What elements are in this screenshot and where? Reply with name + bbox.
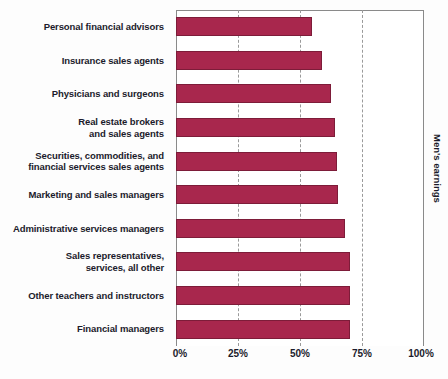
bar-row [176, 245, 424, 279]
bar-row [176, 10, 424, 44]
bar [176, 185, 338, 204]
bar [176, 17, 312, 36]
category-label-row: Physicians and surgeons [0, 77, 170, 111]
category-label-line1: Administrative services managers [13, 223, 164, 235]
category-label-line1: Marketing and sales managers [28, 189, 164, 201]
bar-row [176, 44, 424, 78]
bar-row [176, 77, 424, 111]
bar [176, 286, 350, 305]
bar-row [176, 212, 424, 246]
category-label: Sales representatives, services, all oth… [66, 250, 164, 273]
right-axis-label: Men's earnings [426, 0, 448, 336]
category-label-line1: Personal financial advisors [44, 21, 164, 33]
category-label-row: Sales representatives, services, all oth… [0, 245, 170, 279]
category-label-line1: Physicians and surgeons [52, 88, 164, 100]
x-tick-label: 0% [173, 348, 187, 359]
bar [176, 51, 322, 70]
category-label-line2: and sales agents [78, 128, 164, 140]
bar-row [176, 144, 424, 178]
category-label: Real estate brokers and sales agents [78, 116, 164, 139]
right-axis-label-text: Men's earnings [432, 134, 443, 203]
bar-row [176, 279, 424, 313]
category-label-row: Insurance sales agents [0, 44, 170, 78]
category-label-line1: Sales representatives, [66, 250, 164, 262]
x-tick-label: 100% [408, 348, 434, 359]
bar-row [176, 111, 424, 145]
x-tick-label: 50% [290, 348, 310, 359]
category-label-row: Administrative services managers [0, 212, 170, 246]
category-label: Physicians and surgeons [52, 88, 164, 100]
x-tick-label: 75% [352, 348, 372, 359]
category-label-row: Other teachers and instructors [0, 279, 170, 313]
category-label: Insurance sales agents [62, 55, 164, 67]
horizontal-bar-chart: Personal financial advisors Insurance sa… [0, 0, 448, 379]
category-label-row: Personal financial advisors [0, 10, 170, 44]
bar [176, 84, 331, 103]
category-label-row: Financial managers [0, 312, 170, 346]
x-tick-label: 25% [228, 348, 248, 359]
bar-row [176, 178, 424, 212]
category-label: Other teachers and instructors [28, 290, 164, 302]
x-axis: 0% 25% 50% 75% 100% [0, 348, 448, 366]
category-label-line1: Real estate brokers [78, 116, 164, 128]
category-axis-labels: Personal financial advisors Insurance sa… [0, 10, 170, 346]
category-label-row: Marketing and sales managers [0, 178, 170, 212]
category-label-line2: services, all other [66, 262, 164, 274]
category-label: Securities, commodities, and financial s… [28, 150, 164, 173]
bar [176, 252, 350, 271]
category-label: Marketing and sales managers [28, 189, 164, 201]
bar [176, 219, 345, 238]
category-label-line2: financial services sales agents [28, 161, 164, 173]
category-label-line1: Financial managers [77, 323, 164, 335]
bar [176, 320, 350, 339]
bar-row [176, 312, 424, 346]
category-label-line1: Other teachers and instructors [28, 290, 164, 302]
category-label: Administrative services managers [13, 223, 164, 235]
category-label-line1: Securities, commodities, and [28, 150, 164, 162]
bar [176, 118, 335, 137]
bar [176, 152, 337, 171]
category-label-row: Securities, commodities, and financial s… [0, 144, 170, 178]
category-label-line1: Insurance sales agents [62, 55, 164, 67]
category-label: Financial managers [77, 323, 164, 335]
category-label-row: Real estate brokers and sales agents [0, 111, 170, 145]
bar-series [176, 10, 424, 346]
category-label: Personal financial advisors [44, 21, 164, 33]
